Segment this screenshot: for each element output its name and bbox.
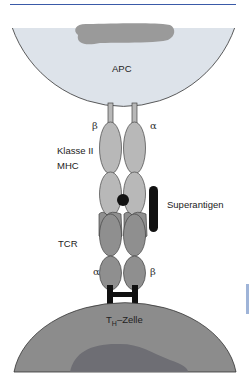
mhc-alpha-label: α <box>150 120 157 131</box>
apc-nucleus <box>75 23 174 44</box>
tcr-beta-label: β <box>150 266 156 277</box>
peptide-dot <box>117 194 129 206</box>
diagram-canvas <box>0 0 249 387</box>
superantigen-bar <box>149 186 158 232</box>
apc-label: APC <box>112 63 132 74</box>
superantigen-label: Superantigen <box>167 199 224 210</box>
th-cell-label: TH–Zelle <box>106 314 143 327</box>
tcr-label: TCR <box>58 238 78 249</box>
mhc-label-line2: MHC <box>57 160 79 171</box>
mhc-label-line1: Klasse II <box>57 145 93 156</box>
tcr <box>99 212 147 305</box>
mhc-beta-label: β <box>92 120 98 131</box>
tcr-alpha-label: α <box>93 266 100 277</box>
th-cell-suffix: –Zelle <box>117 314 143 325</box>
